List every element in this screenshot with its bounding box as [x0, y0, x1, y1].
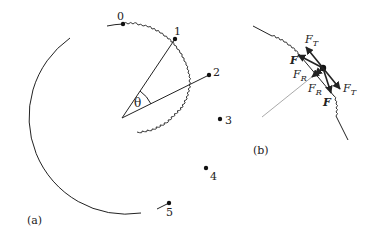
mass-point-3 — [218, 117, 222, 121]
figure-canvas: θ 0 1 2 3 4 5 (a) FT — [0, 0, 371, 244]
string-bottom-plain — [336, 116, 348, 140]
circle-arc-plain — [29, 38, 141, 214]
mass-point-2 — [207, 73, 211, 77]
spring-lower — [334, 96, 338, 116]
arrow-f-upper — [298, 55, 323, 68]
point-label-0: 0 — [117, 10, 124, 23]
point-label-1: 1 — [174, 25, 181, 38]
label-f-upper: F — [289, 54, 299, 67]
label-ft-lower: FT — [342, 82, 357, 97]
label-ft-upper: FT — [304, 33, 319, 48]
panel-b-label: (b) — [253, 144, 269, 157]
arrow-fr-2 — [315, 68, 323, 75]
radius-to-1 — [122, 39, 175, 118]
angle-label: θ — [134, 96, 141, 110]
panel-a-label: (a) — [27, 214, 42, 227]
point-label-4: 4 — [210, 170, 217, 183]
mass-point-5 — [167, 201, 171, 205]
label-fr-left: FR — [292, 68, 307, 83]
point-label-2: 2 — [213, 66, 220, 79]
mass-point-4 — [204, 166, 208, 170]
angle-arc — [140, 91, 151, 104]
label-f-lower: F — [322, 96, 332, 109]
panel-b: FT F FR FR FT F (b) — [253, 26, 357, 157]
panel-a: θ 0 1 2 3 4 5 (a) — [27, 10, 232, 227]
arrow-ft-upper — [306, 47, 323, 68]
spring-arc — [123, 23, 191, 133]
label-fr-lower: FR — [307, 82, 322, 97]
arc-segment-start — [107, 24, 123, 26]
point-label-5: 5 — [166, 206, 173, 219]
string-top-plain — [253, 26, 272, 36]
point-label-3: 3 — [225, 114, 232, 127]
